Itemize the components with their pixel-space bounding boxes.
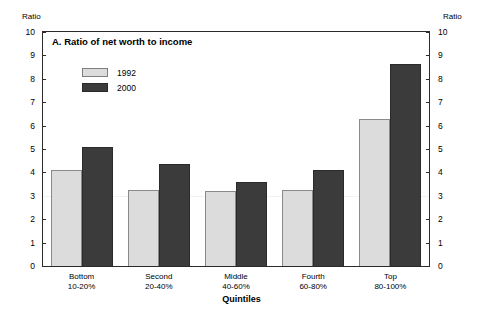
x-category-label-3: Middle40-60% [196,272,276,292]
x-category-line-4-1: Fourth [273,272,353,282]
y-tick-label-right-3: 3 [438,192,454,200]
bar-1992-4[interactable] [282,190,313,266]
y-tick-label-right-5: 5 [438,145,454,153]
bar-group-3 [205,32,267,266]
y-tick-label-right-2: 2 [438,215,454,223]
x-category-label-1: Bottom10-20% [42,272,122,292]
bar-group-4 [282,32,344,266]
y-tick-label-left-4: 4 [19,168,35,176]
y-tick-mark-right-0 [426,266,430,267]
y-tick-label-right-1: 1 [438,239,454,247]
y-axis-unit-label-left: Ratio [22,12,41,21]
x-category-line-3-2: 40-60% [196,282,276,292]
legend-swatch-1992 [82,68,108,77]
x-category-line-2-1: Second [119,272,199,282]
y-tick-label-left-0: 0 [19,262,35,270]
bar-1992-5[interactable] [359,119,390,266]
legend-label-1992: 1992 [117,68,136,78]
bar-group-2 [128,32,190,266]
bar-2000-5[interactable] [390,64,421,266]
y-tick-label-left-7: 7 [19,98,35,106]
y-tick-mark-left-0 [42,266,46,267]
legend-label-2000: 2000 [117,83,136,93]
x-category-line-5-1: Top [350,272,430,282]
y-axis-unit-label-right: Ratio [443,12,462,21]
legend-swatch-2000 [82,83,108,92]
bar-2000-1[interactable] [82,147,113,266]
chart-figure: Ratio Ratio 012345678910 012345678910 A.… [0,0,483,318]
x-category-label-2: Second20-40% [119,272,199,292]
y-tick-label-right-10: 10 [438,28,454,36]
bar-1992-3[interactable] [205,191,236,266]
x-category-label-4: Fourth60-80% [273,272,353,292]
y-tick-label-left-10: 10 [19,28,35,36]
x-category-line-2-2: 20-40% [119,282,199,292]
y-tick-label-right-9: 9 [438,51,454,59]
x-category-line-1-2: 10-20% [42,282,122,292]
x-category-line-1-1: Bottom [42,272,122,282]
legend-item-2000[interactable]: 2000 [82,81,136,94]
x-category-line-3-1: Middle [196,272,276,282]
y-tick-label-right-6: 6 [438,122,454,130]
bar-2000-2[interactable] [159,164,190,266]
legend-item-1992[interactable]: 1992 [82,66,136,79]
bar-group-5 [359,32,421,266]
bar-1992-1[interactable] [51,170,82,266]
chart-title: A. Ratio of net worth to income [52,36,192,47]
bar-2000-4[interactable] [313,170,344,266]
y-tick-label-left-2: 2 [19,215,35,223]
x-axis-title: Quintiles [0,294,483,304]
y-tick-label-right-0: 0 [438,262,454,270]
y-tick-label-left-1: 1 [19,239,35,247]
x-category-line-4-2: 60-80% [273,282,353,292]
y-tick-label-right-4: 4 [438,168,454,176]
y-tick-label-left-3: 3 [19,192,35,200]
bar-2000-3[interactable] [236,182,267,266]
bar-1992-2[interactable] [128,190,159,266]
y-tick-label-right-7: 7 [438,98,454,106]
y-tick-label-right-8: 8 [438,75,454,83]
y-tick-label-left-8: 8 [19,75,35,83]
y-tick-label-left-5: 5 [19,145,35,153]
x-category-line-5-2: 80-100% [350,282,430,292]
y-tick-label-left-6: 6 [19,122,35,130]
y-tick-label-left-9: 9 [19,51,35,59]
legend: 19922000 [82,66,136,96]
x-category-label-5: Top80-100% [350,272,430,292]
